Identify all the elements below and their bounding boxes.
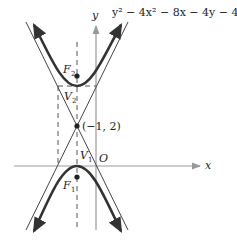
focus-upper-label: F 2 (62, 63, 75, 78)
vertex-upper-label: V 2 (64, 90, 76, 105)
origin-label: O (99, 152, 108, 165)
svg-text:1: 1 (88, 156, 92, 164)
svg-text:F: F (62, 63, 71, 76)
vertex-lower-label: V 1 (80, 149, 92, 164)
y-axis-label: y (91, 9, 99, 22)
focus-lower-dot (74, 174, 79, 179)
svg-text:2: 2 (72, 97, 76, 105)
equation-label: y² − 4x² − 8x − 4y − 4 = 0 (111, 6, 237, 19)
x-axis-label: x (205, 159, 212, 172)
center-dot (74, 123, 79, 128)
svg-text:2: 2 (71, 70, 75, 78)
center-label: (−1, 2) (82, 120, 121, 133)
hyperbola-diagram: y² − 4x² − 8x − 4y − 4 = 0 y x O (−1, 2)… (0, 0, 237, 245)
svg-text:1: 1 (71, 186, 75, 194)
svg-text:F: F (62, 179, 71, 192)
focus-lower-label: F 1 (62, 179, 75, 194)
